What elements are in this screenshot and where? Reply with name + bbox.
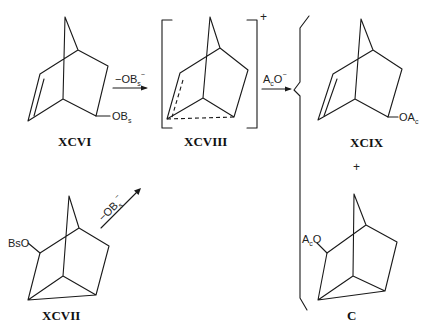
arrowhead-icon	[285, 87, 292, 92]
charge-plus: +	[260, 10, 267, 24]
bracket-left	[162, 20, 172, 128]
substituent-aco: AcO	[302, 233, 322, 247]
plus-sign: +	[353, 160, 360, 174]
reagent-label-1: −OBs−	[115, 71, 145, 87]
molecule-xcviii: + XCVIII	[162, 10, 267, 149]
reaction-scheme: OBs XCVI −OBs− + XCVIII AcO− OAc XCIX +	[0, 0, 424, 328]
molecule-xcvii: BsO XCVII	[8, 196, 109, 323]
substituent-obs: OBs	[112, 110, 132, 124]
label-xcviii: XCVIII	[184, 134, 227, 149]
substituent-bso: BsO	[8, 237, 30, 249]
label-c: C	[347, 308, 356, 323]
reagent-label-3: −OBs−	[95, 192, 127, 224]
product-brace	[294, 16, 309, 310]
arrow-xcvi-to-xcviii: −OBs−	[113, 71, 148, 91]
label-xcix: XCIX	[350, 135, 384, 150]
label-xcvi: XCVI	[58, 134, 91, 149]
arrowhead-icon	[141, 86, 148, 91]
molecule-xcix: OAc XCIX	[318, 19, 419, 150]
reagent-label-2: AcO−	[263, 71, 287, 87]
molecule-c: AcO C	[302, 194, 397, 323]
arrow-xcvii-to-xcviii: −OBs−	[95, 188, 141, 228]
arrow-xcviii-to-products: AcO−	[262, 71, 292, 92]
label-xcvii: XCVII	[42, 308, 80, 323]
bracket-right	[247, 20, 257, 128]
substituent-oac: OAc	[399, 111, 419, 125]
